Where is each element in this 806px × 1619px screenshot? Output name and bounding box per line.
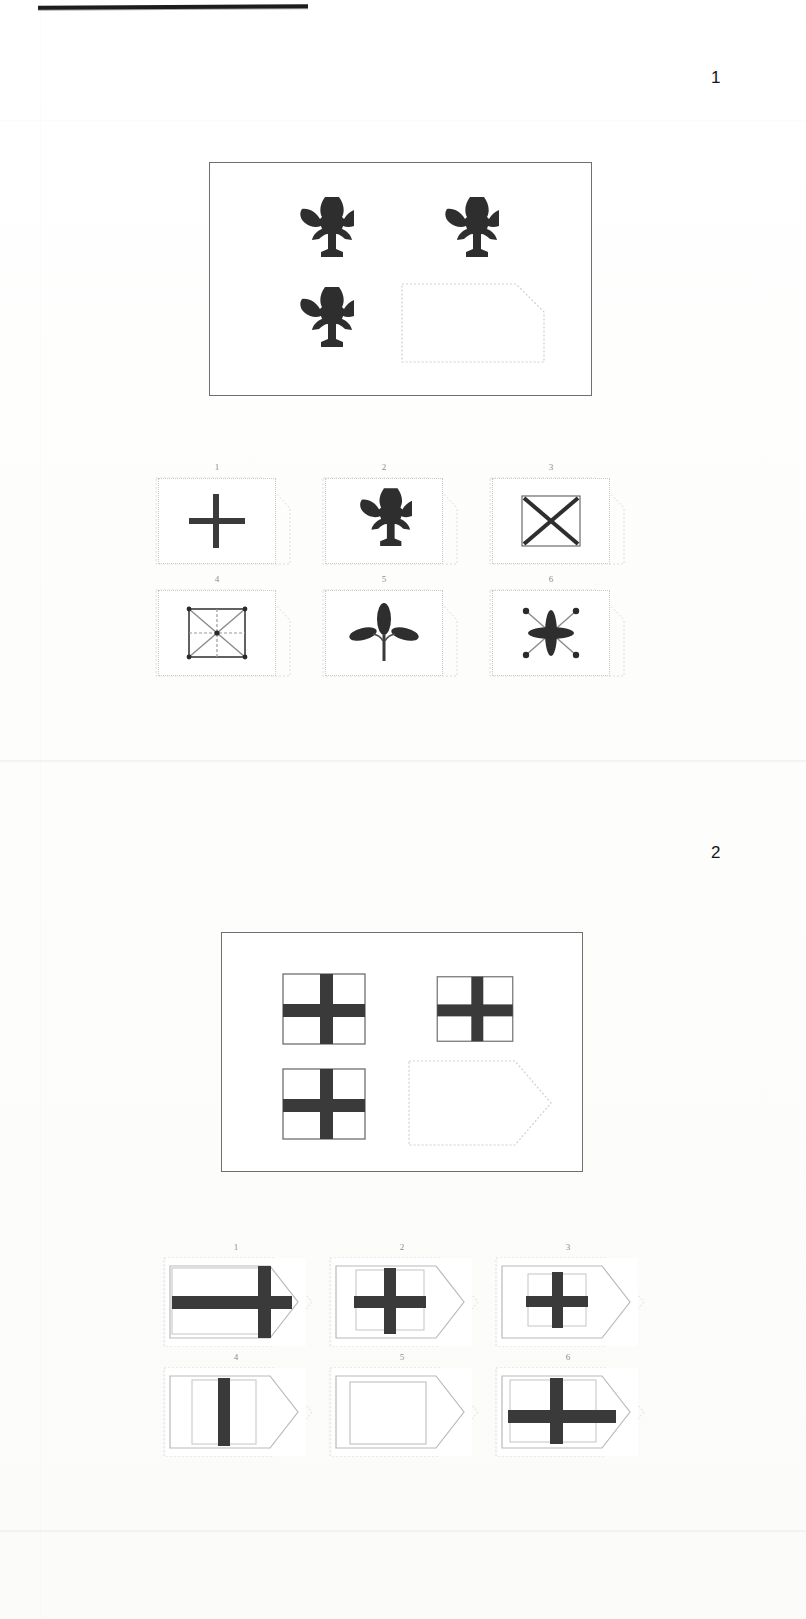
option-5[interactable]: 5	[332, 1368, 472, 1456]
option-label: 6	[498, 1352, 638, 1362]
matrix-cell-top-left	[274, 963, 374, 1055]
options-row-top: 1 2	[0, 458, 806, 570]
option-figure-wide-cross-offset-right	[166, 1258, 306, 1346]
test-item-2: 2	[0, 815, 806, 1555]
option-label: 1	[158, 462, 276, 472]
matrix-frame	[209, 162, 592, 396]
matrix-cell-bottom-left	[274, 1058, 374, 1150]
option-2[interactable]: 2	[325, 478, 443, 564]
option-figure-fleur-de-lis	[325, 478, 443, 564]
option-4[interactable]: 4	[166, 1368, 306, 1456]
option-figure-plus-cross	[158, 478, 276, 564]
option-5[interactable]: 5	[325, 590, 443, 676]
option-figure-empty-square	[332, 1368, 472, 1456]
option-figure-vertical-bar-only	[166, 1368, 306, 1456]
option-label: 2	[332, 1242, 472, 1252]
option-6[interactable]: 6	[492, 590, 610, 676]
option-figure-eight-point-star-burst	[492, 590, 610, 676]
matrix-cell-bottom-left	[280, 281, 370, 361]
options-row-bottom: 4 5	[0, 1340, 806, 1452]
matrix-cell-answer-slot	[405, 1055, 555, 1151]
option-figure-cross-in-square-small-narrow	[498, 1258, 638, 1346]
option-label: 6	[492, 574, 610, 584]
option-label: 2	[325, 462, 443, 472]
header-rule	[38, 4, 308, 10]
option-figure-square-with-x	[492, 478, 610, 564]
option-4[interactable]: 4	[158, 590, 276, 676]
option-figure-wide-cross-in-rectangle	[498, 1368, 638, 1456]
option-label: 4	[158, 574, 276, 584]
option-2[interactable]: 2	[332, 1258, 472, 1346]
option-1[interactable]: 1	[158, 478, 276, 564]
option-figure-square-with-x-and-cross	[158, 590, 276, 676]
item-number: 1	[711, 68, 721, 88]
matrix-cell-top-left	[280, 191, 370, 271]
option-label: 1	[166, 1242, 306, 1252]
option-label: 3	[498, 1242, 638, 1252]
option-label: 3	[492, 462, 610, 472]
option-figure-cross-in-square-small	[332, 1258, 472, 1346]
option-label: 4	[166, 1352, 306, 1362]
options-row-top: 1 2	[0, 1230, 806, 1342]
matrix-frame	[221, 932, 583, 1172]
matrix-cell-answer-slot	[398, 278, 548, 368]
option-figure-three-leaf-sprig	[325, 590, 443, 676]
option-3[interactable]: 3	[498, 1258, 638, 1346]
option-1[interactable]: 1	[166, 1258, 306, 1346]
options-row-bottom: 4 5	[0, 570, 806, 682]
option-label: 5	[325, 574, 443, 584]
option-label: 5	[332, 1352, 472, 1362]
test-item-1: 1	[0, 40, 806, 780]
option-6[interactable]: 6	[498, 1368, 638, 1456]
matrix-cell-top-right	[425, 963, 525, 1055]
item-number: 2	[711, 843, 721, 863]
option-3[interactable]: 3	[492, 478, 610, 564]
matrix-cell-top-right	[425, 191, 515, 271]
